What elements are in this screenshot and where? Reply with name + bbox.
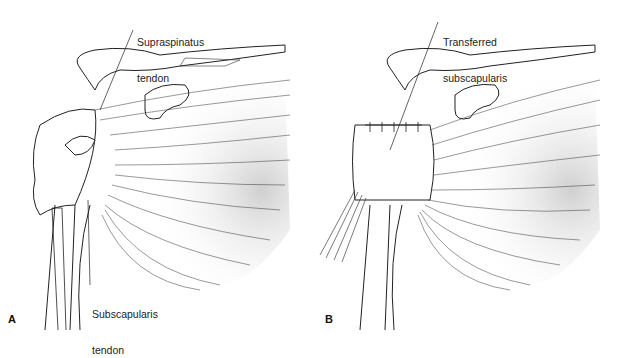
- label-line: Subscapularis: [92, 308, 158, 320]
- label-line: tendon: [137, 72, 204, 84]
- label-line: subscapularis: [443, 72, 507, 84]
- panel-b: Transferred subscapularis B: [310, 0, 617, 339]
- label-supraspinatus-tendon: Supraspinatus tendon: [137, 12, 204, 108]
- label-line: tendon: [92, 344, 158, 356]
- panel-letter-a: A: [8, 313, 16, 325]
- label-line: Supraspinatus: [137, 36, 204, 48]
- panel-a: Supraspinatus tendon Subscapularis tendo…: [0, 0, 308, 339]
- label-line: Transferred: [443, 36, 507, 48]
- panel-letter-b: B: [325, 313, 333, 325]
- label-subscapularis-tendon: Subscapularis tendon: [92, 284, 158, 358]
- label-transferred-subscapularis: Transferred subscapularis: [443, 12, 507, 108]
